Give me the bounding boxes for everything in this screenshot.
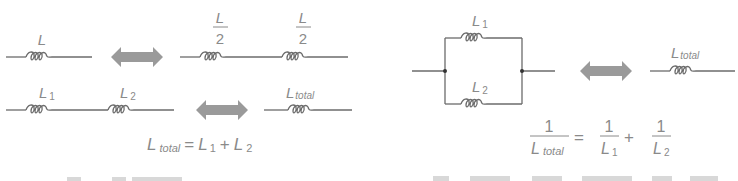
inductor-l2-label: L2 [120,84,136,102]
inductor-coil-icon [26,52,52,60]
clipped-caption-right [433,176,718,181]
equals-sign: = [574,128,584,147]
fraction-numerator: 1 [657,118,666,135]
fraction-denominator: 2 [216,30,224,47]
equivalence-arrow-icon [111,47,163,67]
inductor-coil-icon [288,105,314,113]
inductor-coil-icon [670,66,696,74]
equivalence-arrow-icon [196,100,248,120]
junction-node [443,69,447,73]
inductor-l2-label: L2 [472,78,488,96]
inductor-total-label: Ltotal [286,84,315,101]
inductor-combination-diagram: L L 2 L 2 L1 L2 Ltotal Ltotal=L1+L2 [0,0,738,181]
inductor-coil-icon [461,99,487,107]
fraction-numerator: 1 [545,118,554,135]
fraction-numerator: L [299,9,307,26]
inductor-total-label: Ltotal [671,44,700,61]
inductor-coil-icon [461,33,487,41]
clipped-caption-left [67,177,182,181]
fraction-denominator: L2 [653,140,670,158]
inductor-coil-icon [26,105,52,113]
fraction-numerator: L [216,9,224,26]
single-inductor: L [6,31,92,60]
fraction-numerator: 1 [605,118,614,135]
junction-node [520,69,524,73]
plus-sign: + [624,128,634,147]
fraction-denominator: L1 [601,140,618,158]
series-pair: L1 L2 [6,84,174,113]
parallel-equivalent: Ltotal [650,44,735,74]
inductor-coil-icon [282,52,308,60]
inductor-label: L [38,31,46,48]
series-equivalent: Ltotal [264,84,352,113]
inductor-l1-label: L1 [39,84,55,102]
fraction-denominator: Ltotal [531,140,564,157]
inductor-l1-label: L1 [472,12,488,30]
inductor-coil-icon [108,105,134,113]
inductor-coil-icon [200,52,226,60]
parallel-circuit: L1 L2 [412,12,555,107]
fraction-denominator: 2 [299,30,307,47]
split-inductors: L 2 L 2 [180,9,348,60]
equivalence-arrow-icon [580,61,632,81]
series-formula: Ltotal=L1+L2 [147,135,252,154]
parallel-formula: 1 Ltotal = 1 L1 + 1 L2 [530,118,671,158]
